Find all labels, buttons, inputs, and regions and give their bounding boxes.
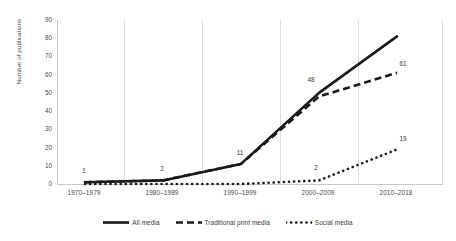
legend-swatch-dashed-icon [176, 219, 202, 226]
x-tick-1980-1989: 1980–1989 [146, 189, 179, 196]
point-label-social-2000: 2 [314, 165, 318, 171]
y-axis-title: Number of publications [15, 0, 22, 112]
point-label-social-2010: 19 [399, 136, 406, 142]
y-tick-40: 40 [28, 108, 52, 114]
legend-item-all-media: All media [103, 219, 159, 226]
chart-legend: All media Traditional print media Social… [0, 219, 456, 226]
series-line-traditional-print-media [85, 73, 397, 182]
y-tick-10: 10 [28, 163, 52, 169]
x-tick-2000-2009: 2000–2009 [302, 189, 335, 196]
point-label-print-2000: 48 [307, 77, 314, 83]
y-tick-30: 30 [28, 126, 52, 132]
point-label-all-1980: 2 [160, 166, 164, 172]
x-axis-tick-labels: 1970–1979 1980–1989 1990–1999 2000–2009 … [57, 189, 442, 203]
y-tick-60: 60 [28, 71, 52, 77]
y-axis-tick-labels: 0 10 20 30 40 50 60 70 80 90 [28, 0, 52, 241]
x-tick-2010-2018: 2010–2018 [380, 189, 413, 196]
y-tick-50: 50 [28, 90, 52, 96]
y-tick-90: 90 [28, 17, 52, 23]
legend-label-all-media: All media [132, 219, 159, 226]
legend-swatch-solid-icon [103, 219, 129, 226]
publications-line-chart: Number of publications 0 10 20 30 40 50 … [0, 0, 456, 241]
y-tick-0: 0 [28, 181, 52, 187]
legend-label-social-media: Social media [315, 219, 353, 226]
legend-label-traditional-print-media: Traditional print media [205, 219, 270, 226]
y-tick-70: 70 [28, 53, 52, 59]
series-lines [58, 20, 443, 184]
plot-area [57, 20, 443, 185]
point-label-print-2010: 61 [399, 61, 406, 67]
point-label-all-1970: 1 [82, 168, 86, 174]
y-tick-20: 20 [28, 144, 52, 150]
x-tick-1970-1979: 1970–1979 [68, 189, 101, 196]
x-tick-1990-1999: 1990–1999 [224, 189, 257, 196]
y-tick-80: 80 [28, 35, 52, 41]
legend-item-social-media: Social media [286, 219, 353, 226]
legend-swatch-dotted-icon [286, 219, 312, 226]
series-line-all-media [85, 36, 397, 182]
legend-item-traditional-print-media: Traditional print media [176, 219, 270, 226]
point-label-all-1990: 11 [237, 150, 244, 156]
